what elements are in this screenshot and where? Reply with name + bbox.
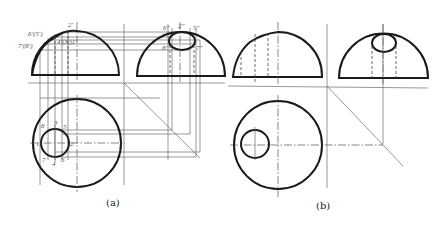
label-7-dprime: 7" xyxy=(196,44,203,52)
orthographic-projection-drawing: 6'(5') 7'(8') 2' 4'(3')1' 6" 2" 5" 8" 7"… xyxy=(0,0,445,225)
side-view-a: 6" 2" 5" 8" 7" xyxy=(137,22,225,82)
top-label-7: 7 xyxy=(42,156,46,164)
label-7-8-prime: 7'(8') xyxy=(18,42,33,50)
label-6-5-prime: 6'(5') xyxy=(28,30,43,38)
label-8-dprime: 8" xyxy=(162,44,169,52)
label-5-dprime: 5" xyxy=(193,24,200,32)
top-label-5: 5 xyxy=(63,123,67,131)
side-view-b xyxy=(339,24,428,84)
top-label-3: 3 xyxy=(53,119,58,127)
label-4-3-1-prime: 4'(3')1' xyxy=(57,38,77,46)
front-view-a: 6'(5') 7'(8') 2' 4'(3')1' xyxy=(18,21,119,80)
panel-a: 6'(5') 7'(8') 2' 4'(3')1' 6" 2" 5" 8" 7"… xyxy=(18,21,225,208)
label-2-dprime: 2" xyxy=(178,22,185,30)
front-view-b xyxy=(233,22,322,84)
top-label-4: 4 xyxy=(52,160,56,168)
top-label-6: 6 xyxy=(61,156,65,164)
top-label-1: 1 xyxy=(36,140,40,148)
caption-b: (b) xyxy=(316,200,330,211)
label-2-prime: 2' xyxy=(68,21,74,29)
caption-a: (a) xyxy=(106,197,120,208)
label-6-dprime: 6" xyxy=(163,24,170,32)
top-label-8: 8 xyxy=(41,122,45,130)
top-view-a: 8 3 5 1 2 7 4 6 xyxy=(30,95,125,192)
panel-b: (b) xyxy=(228,22,428,211)
top-label-2: 2 xyxy=(70,140,74,148)
top-view-b xyxy=(234,95,322,197)
